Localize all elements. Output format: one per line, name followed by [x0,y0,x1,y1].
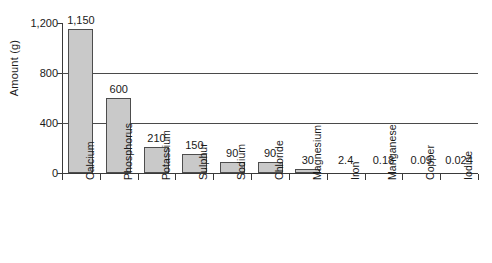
x-category-label: Sulphur [198,143,209,180]
y-tick-label: 0 [0,168,58,179]
y-tick-label: 400 [0,118,58,129]
x-category-label: Calcium [85,141,96,180]
x-category-label: Potassium [161,130,172,180]
bar-chart: Amount (g) 04008001,200 1,15060021015090… [0,0,492,263]
x-category-label: Chloride [274,140,285,180]
x-category-label: Sodium [236,144,247,180]
x-category-label: Iodine [463,151,474,180]
y-tick-label: 800 [0,68,58,79]
x-category-label: Phosphorus [123,123,134,180]
y-axis-tick-labels: 04008001,200 [0,0,58,263]
x-category-label: Iron [350,162,361,181]
x-category-label: Copper [425,145,436,180]
x-axis-category-labels: CalciumPhosphorusPotassiumSulphurSodiumC… [62,0,492,263]
y-tick-label: 1,200 [0,18,58,29]
x-category-label: Magnesium [312,125,323,180]
x-category-label: Manganese [387,124,398,180]
